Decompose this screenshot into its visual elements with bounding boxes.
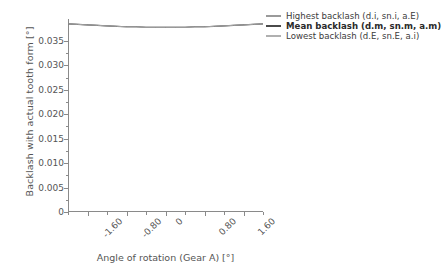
y-axis-minor-tick: [66, 102, 69, 103]
legend-item-label: Mean backlash (d.m, sn.m, a.m): [286, 21, 441, 31]
y-tick-label: 0.010: [26, 158, 64, 168]
x-axis-minor-tick: [224, 212, 225, 215]
y-axis-minor-tick: [66, 126, 69, 127]
legend-item[interactable]: Lowest backlash (d.E, sn.E, a.i): [265, 31, 448, 41]
x-axis-minor-tick: [263, 212, 264, 215]
y-tick-label: 0: [26, 207, 64, 217]
y-axis-minor-tick: [66, 200, 69, 201]
x-tick-label: -0.80: [139, 216, 163, 240]
series-lines: [68, 19, 263, 212]
legend-item[interactable]: Mean backlash (d.m, sn.m, a.m): [265, 21, 448, 31]
y-axis-tick: [64, 139, 69, 140]
x-axis-minor-tick: [68, 212, 69, 215]
x-tick-label: 1.60: [255, 216, 276, 237]
x-axis-minor-tick: [107, 212, 108, 215]
y-tick-label: 0.035: [26, 36, 64, 46]
legend-line-icon: [266, 35, 281, 37]
y-axis-minor-tick: [66, 175, 69, 176]
y-axis-tick: [64, 65, 69, 66]
legend-item-label: Highest backlash (d.i, sn.i, a.E): [286, 11, 419, 21]
x-axis-minor-tick: [146, 212, 147, 215]
x-axis-minor-tick: [185, 212, 186, 215]
y-tick-label: 0.025: [26, 85, 64, 95]
legend-item-label: Lowest backlash (d.E, sn.E, a.i): [286, 31, 419, 41]
y-axis-tick: [64, 163, 69, 164]
x-tick-label: -1.60: [100, 216, 124, 240]
x-tick-label: 0.80: [216, 216, 237, 237]
x-axis-title: Angle of rotation (Gear A) [°]: [58, 252, 273, 263]
chart-legend: Highest backlash (d.i, sn.i, a.E)Mean ba…: [265, 11, 448, 41]
y-axis-tick: [64, 41, 69, 42]
y-axis-tick: [64, 114, 69, 115]
x-axis-tick-labels: -1.60-0.8000.801.60: [68, 216, 268, 250]
y-axis-minor-tick: [66, 78, 69, 79]
y-axis-tick: [64, 90, 69, 91]
legend-line-icon: [266, 25, 281, 27]
y-axis-minor-tick: [66, 53, 69, 54]
plot-area: [68, 19, 263, 212]
y-tick-label: 0.005: [26, 183, 64, 193]
y-tick-label: 0.030: [26, 60, 64, 70]
legend-line-icon: [266, 15, 281, 17]
legend-item[interactable]: Highest backlash (d.i, sn.i, a.E): [265, 11, 448, 21]
x-tick-label: 0: [173, 216, 184, 227]
y-axis-tick-labels: 00.0050.0100.0150.0200.0250.0300.035: [26, 0, 64, 276]
chart-container: Backlash with actual tooth form [°] 00.0…: [0, 0, 448, 276]
y-axis-minor-tick: [66, 151, 69, 152]
y-axis-tick: [64, 188, 69, 189]
y-tick-label: 0.015: [26, 134, 64, 144]
y-tick-label: 0.020: [26, 109, 64, 119]
